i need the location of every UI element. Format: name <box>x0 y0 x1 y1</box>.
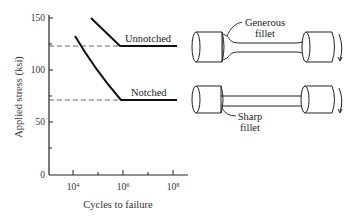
notched-specimen-drawing <box>192 86 335 113</box>
generous-fillet-leader-line <box>227 22 242 36</box>
sharp-fillet-label-line1: Sharp <box>238 111 263 122</box>
y-axis-title: Applied stress (ksi) <box>13 56 25 138</box>
rotation-arrow-icon <box>339 34 342 60</box>
x-axis-title: Cycles to failure <box>83 199 153 210</box>
rotation-arrow-icon <box>339 88 342 112</box>
x-ticks <box>73 170 173 175</box>
y-tick-label: 100 <box>31 65 46 75</box>
unnotched-label: Unnotched <box>125 33 172 44</box>
generous-fillet-label-line2: fillet <box>255 28 275 39</box>
generous-fillet-label-line1: Generous <box>245 17 285 28</box>
figure-canvas: 150 100 50 0 104 106 108 Cycles to failu… <box>0 0 350 217</box>
x-tick-label: 106 <box>117 181 131 192</box>
y-tick-label: 0 <box>40 170 45 180</box>
sharp-fillet-leader-line <box>222 108 236 116</box>
y-tick-label: 50 <box>36 117 46 127</box>
sharp-fillet-label-line2: fillet <box>240 122 260 133</box>
notched-label: Notched <box>131 87 167 98</box>
sn-chart: 150 100 50 0 104 106 108 Cycles to failu… <box>13 13 188 210</box>
x-tick-label: 108 <box>167 181 180 192</box>
y-tick-label: 150 <box>31 13 46 23</box>
x-tick-label: 104 <box>67 181 81 192</box>
